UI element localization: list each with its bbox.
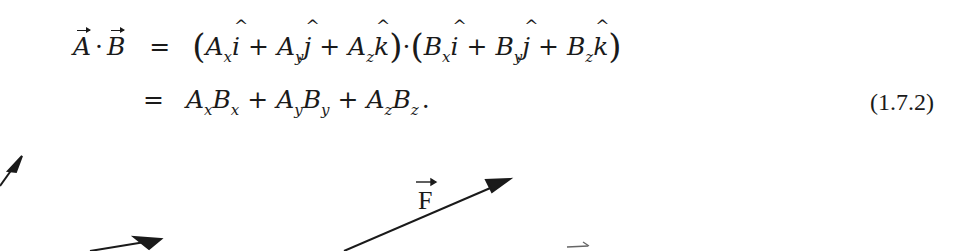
force-arrow-head-icon [486, 179, 510, 192]
partial-vector-mark [567, 246, 588, 247]
arrow-shaft [90, 242, 145, 251]
arrow-head-icon [8, 156, 22, 172]
force-label: F [418, 186, 432, 216]
vector-diagram [0, 0, 957, 251]
